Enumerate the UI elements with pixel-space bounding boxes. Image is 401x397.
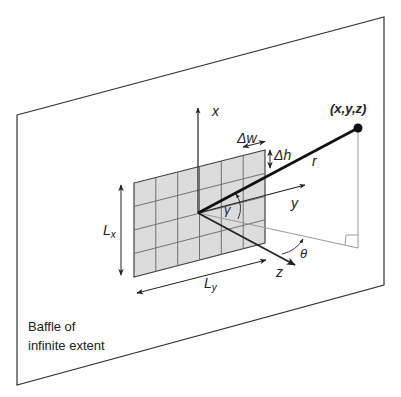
lx-label: Lx: [103, 222, 117, 240]
ly-label-sub: y: [211, 282, 218, 293]
baffle-diagram: x y z r γ θ (x,y,z) Δw Δh Lx Ly Baffle o…: [0, 0, 401, 397]
baffle-label-line2: infinite extent: [28, 338, 105, 353]
ly-label-main: L: [204, 275, 212, 291]
lx-label-sub: x: [110, 229, 117, 240]
ly-label: Ly: [204, 275, 218, 293]
theta-label: θ: [300, 246, 307, 261]
r-label: r: [312, 153, 318, 169]
delta-w-label: Δw: [236, 130, 257, 146]
x-axis-label: x: [211, 103, 220, 119]
z-axis-label: z: [275, 264, 283, 280]
field-point: [354, 124, 363, 133]
baffle-label-line1: Baffle of: [28, 319, 76, 334]
point-label: (x,y,z): [330, 101, 366, 116]
delta-h-label: Δh: [273, 147, 291, 163]
lx-label-main: L: [103, 222, 111, 238]
y-axis-label: y: [290, 195, 299, 211]
